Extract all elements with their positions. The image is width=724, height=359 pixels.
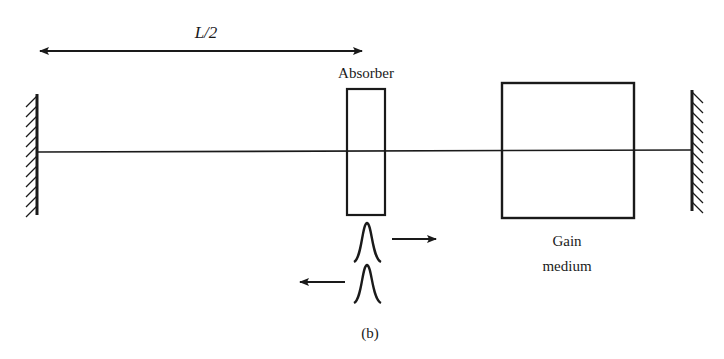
gain-label-line2: medium <box>542 258 591 274</box>
right-mirror-icon <box>692 90 703 213</box>
panel-label: (b) <box>361 325 379 342</box>
beam-axis <box>37 150 692 152</box>
mode-locking-diagram: L/2 Absorber Gain medium <box>0 0 724 359</box>
absorber-label: Absorber <box>338 65 394 81</box>
absorber-box <box>347 89 385 215</box>
gain-label-line1: Gain <box>552 233 582 249</box>
pulse-backward-icon <box>354 265 381 303</box>
distance-label: L/2 <box>194 23 218 42</box>
pulse-forward-icon <box>354 223 381 262</box>
left-mirror-icon <box>26 94 37 217</box>
